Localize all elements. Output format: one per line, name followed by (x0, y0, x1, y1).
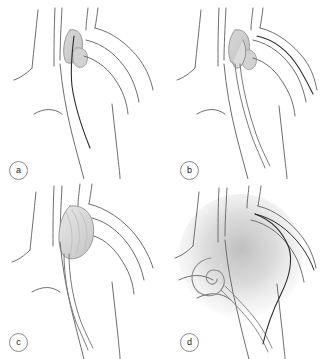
aortic-arch-outer (95, 28, 153, 90)
branch-vessel-third-right (260, 8, 263, 28)
panel-label-b: b (180, 161, 199, 180)
contrast-shading (179, 194, 303, 318)
descending-aorta-right (112, 282, 120, 359)
descending-aorta-right (279, 106, 287, 179)
branch-vessel-second-left (54, 8, 55, 66)
delivery-catheter (64, 254, 93, 350)
panel-b (163, 0, 326, 179)
branch-vessel-third-left (251, 8, 253, 30)
branch-vessel-second-right (224, 8, 226, 60)
branch-vessel-left-lower (12, 250, 30, 262)
aortic-arch-inner-2 (253, 58, 295, 116)
aortic-arch-inner (253, 40, 306, 102)
aortic-arch-inner (92, 218, 144, 280)
branch-vessel-third-right (89, 184, 92, 204)
descending-aorta-right (112, 104, 120, 179)
branch-vessel-third-right (95, 8, 98, 28)
delivery-catheter (235, 64, 270, 168)
branch-vessel-left-outer (195, 10, 201, 68)
branch-vessel-second-left (53, 186, 54, 246)
descending-aorta-left (224, 64, 248, 179)
branch-vessel-left-lower (14, 68, 32, 80)
branch-vessel-second-left (218, 8, 219, 66)
branch-vessel-third-left (86, 8, 88, 30)
lower-branch-vessel (34, 110, 62, 115)
branch-vessel-left-outer (32, 10, 38, 68)
panel-label-a: a (9, 161, 28, 180)
panel-c (0, 180, 163, 359)
branch-vessel-left-outer (30, 192, 36, 250)
panel-a (0, 0, 163, 179)
panel-label-d: d (180, 333, 199, 352)
panel-b-illustration (163, 0, 326, 179)
lower-branch-vessel (32, 288, 60, 293)
lower-branch-vessel (197, 110, 225, 115)
panel-label-c: c (9, 333, 28, 352)
branch-vessel-second-right (60, 8, 62, 60)
panel-a-illustration (0, 0, 163, 179)
branch-vessel-left-lower (177, 68, 195, 80)
figure-panel-grid: a (0, 0, 326, 359)
aortic-arch-outer (260, 28, 317, 90)
occluder-device (59, 206, 94, 259)
aneurysm-sac-lobe (73, 48, 88, 68)
panel-c-illustration (0, 180, 163, 359)
branch-vessel-third-left (78, 184, 80, 206)
aortic-arch-inner-2 (84, 56, 128, 114)
